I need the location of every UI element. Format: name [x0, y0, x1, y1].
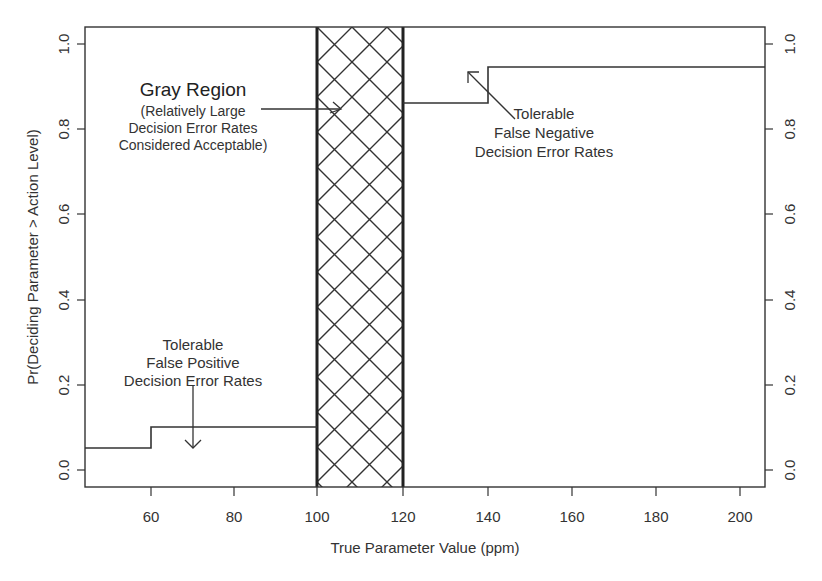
svg-text:200: 200: [727, 508, 752, 525]
svg-text:180: 180: [643, 508, 668, 525]
svg-text:0.4: 0.4: [55, 290, 72, 311]
svg-text:0.2: 0.2: [781, 375, 798, 396]
svg-text:Tolerable: Tolerable: [163, 336, 224, 353]
svg-text:0.6: 0.6: [55, 204, 72, 225]
false-positive-arrow-icon: [185, 385, 201, 448]
false-positive-annotation: Tolerable False Positive Decision Error …: [124, 336, 262, 389]
svg-text:Decision Error Rates: Decision Error Rates: [475, 143, 613, 160]
false-negative-arrow-icon: [468, 72, 515, 119]
svg-text:0.6: 0.6: [781, 204, 798, 225]
svg-text:False Negative: False Negative: [494, 124, 594, 141]
svg-text:120: 120: [390, 508, 415, 525]
svg-text:False Positive: False Positive: [146, 354, 239, 371]
gray-region: [317, 27, 403, 487]
decision-performance-chart: 0.0 0.2 0.4 0.6 0.8 1.0 0.0 0.2 0.4 0.6 …: [0, 0, 822, 581]
svg-text:0.0: 0.0: [55, 460, 72, 481]
svg-text:1.0: 1.0: [781, 34, 798, 55]
svg-text:0.0: 0.0: [781, 460, 798, 481]
y-axis-right: [765, 44, 773, 470]
svg-text:80: 80: [226, 508, 243, 525]
y-axis-left-labels: 0.0 0.2 0.4 0.6 0.8 1.0: [55, 34, 72, 481]
svg-text:100: 100: [304, 508, 329, 525]
svg-text:Tolerable: Tolerable: [514, 105, 575, 122]
false-positive-step-line: [85, 427, 317, 448]
false-negative-step-line: [403, 67, 765, 103]
svg-text:0.2: 0.2: [55, 375, 72, 396]
false-negative-annotation: Tolerable False Negative Decision Error …: [475, 105, 613, 160]
y-axis-right-labels: 0.0 0.2 0.4 0.6 0.8 1.0: [781, 34, 798, 481]
y-axis-title: Pr(Deciding Parameter > Action Level): [24, 129, 41, 385]
svg-text:Considered Acceptable): Considered Acceptable): [119, 137, 268, 153]
svg-text:Gray Region: Gray Region: [140, 79, 247, 100]
x-axis-labels: 60 80 100 120 140 160 180 200: [143, 508, 753, 525]
svg-text:(Relatively Large: (Relatively Large: [140, 103, 245, 119]
svg-text:0.8: 0.8: [781, 119, 798, 140]
svg-text:60: 60: [143, 508, 160, 525]
svg-text:0.4: 0.4: [781, 290, 798, 311]
x-axis: [151, 487, 740, 496]
y-axis-left: [77, 44, 85, 470]
svg-text:160: 160: [559, 508, 584, 525]
x-axis-title: True Parameter Value (ppm): [330, 539, 519, 556]
svg-text:140: 140: [475, 508, 500, 525]
gray-region-annotation: Gray Region (Relatively Large Decision E…: [119, 79, 268, 153]
svg-text:Decision Error Rates: Decision Error Rates: [128, 120, 257, 136]
svg-text:0.8: 0.8: [55, 119, 72, 140]
svg-text:1.0: 1.0: [55, 34, 72, 55]
